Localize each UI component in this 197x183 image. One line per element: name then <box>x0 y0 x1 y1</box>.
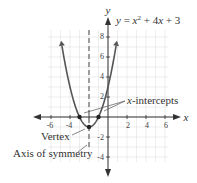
x-tick-labels: -6 -4 2 4 6 <box>47 121 168 130</box>
y-axis-label: y <box>105 4 111 16</box>
parabola-diagram: -6 -4 2 4 6 8 6 4 2 -2 -4 x y y = x2 + 4… <box>0 0 197 183</box>
axis-of-symmetry-label: Axis of symmetry <box>13 147 93 159</box>
curve-right-arrow-icon <box>113 41 119 47</box>
y-tick-label: 6 <box>100 52 104 61</box>
x-tick-label: 4 <box>145 121 149 130</box>
x-intercept-point-right <box>96 115 100 119</box>
y-axis-down-arrow-icon <box>105 169 111 177</box>
x-axis-left-arrow-icon <box>33 114 41 120</box>
x-tick-label: -4 <box>66 121 73 130</box>
x-axis-label: x <box>183 111 189 123</box>
graph-canvas: -6 -4 2 4 6 8 6 4 2 -2 -4 x y y = x2 + 4… <box>0 0 197 183</box>
x-intercept-point-left <box>77 115 81 119</box>
vertex-label: Vertex <box>41 130 70 142</box>
equation-label: y = x2 + 4x + 3 <box>115 14 181 26</box>
y-tick-label: -4 <box>97 153 104 162</box>
x-intercepts-label: x-intercepts <box>126 94 178 106</box>
y-axis-up-arrow-icon <box>105 17 111 25</box>
vertex-point <box>87 125 91 129</box>
x-tick-label: 2 <box>126 121 130 130</box>
x-tick-label: -6 <box>47 121 54 130</box>
y-tick-label: -2 <box>97 133 104 142</box>
x-axis-right-arrow-icon <box>173 114 181 120</box>
y-tick-label: 8 <box>100 32 104 41</box>
curve-left-arrow-icon <box>59 41 65 47</box>
y-tick-label: 2 <box>100 92 104 101</box>
x-axis <box>33 114 181 120</box>
y-tick-label: 4 <box>100 72 104 81</box>
x-tick-label: 6 <box>164 121 168 130</box>
